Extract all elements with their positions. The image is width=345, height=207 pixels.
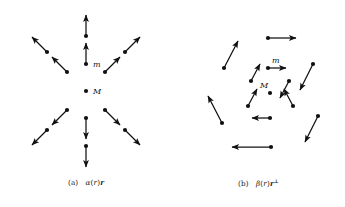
figure-background <box>0 0 345 207</box>
figure-root: M m <box>0 0 345 207</box>
panel-b-center-mass-dot <box>268 91 272 95</box>
panel-a-center-mass-dot <box>84 89 88 93</box>
panel-a-caption: (a) α(r)r <box>0 178 172 187</box>
panel-a-test-mass-label: m <box>93 60 101 69</box>
panel-b-caption-tag: (b) <box>238 179 249 188</box>
panel-a-caption-tag: (a) <box>68 178 78 187</box>
panel-b-center-mass-label: M <box>259 81 269 90</box>
panel-b-caption-perp-icon: ⊥ <box>274 178 279 184</box>
vector-field-diagram: M m <box>0 0 345 207</box>
panel-b-test-mass-label: m <box>272 56 280 65</box>
panel-b-caption: (b) β(r)r⊥ <box>172 178 345 188</box>
panel-a-caption-vector-r: r <box>100 178 104 187</box>
panel-a-center-mass-label: M <box>92 87 102 96</box>
